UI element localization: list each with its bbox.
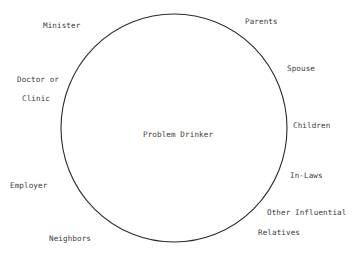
label-relatives: Relatives (258, 228, 300, 237)
label-minister: Minister (43, 21, 80, 30)
influence-circle-diagram: Problem Drinker Minister Parents Doctor … (0, 0, 352, 258)
label-neighbors: Neighbors (49, 234, 91, 243)
label-doctor-line2: Clinic (22, 94, 50, 103)
label-employer: Employer (10, 181, 47, 190)
label-children: Children (293, 121, 330, 130)
problem-drinker-circle (61, 14, 287, 242)
label-parents: Parents (245, 17, 278, 26)
label-spouse: Spouse (287, 64, 315, 73)
center-label-problem-drinker: Problem Drinker (143, 130, 213, 139)
label-in-laws: In-Laws (290, 171, 323, 180)
label-other-influential: Other Influential (267, 208, 346, 217)
label-doctor-line1: Doctor or (17, 75, 59, 84)
